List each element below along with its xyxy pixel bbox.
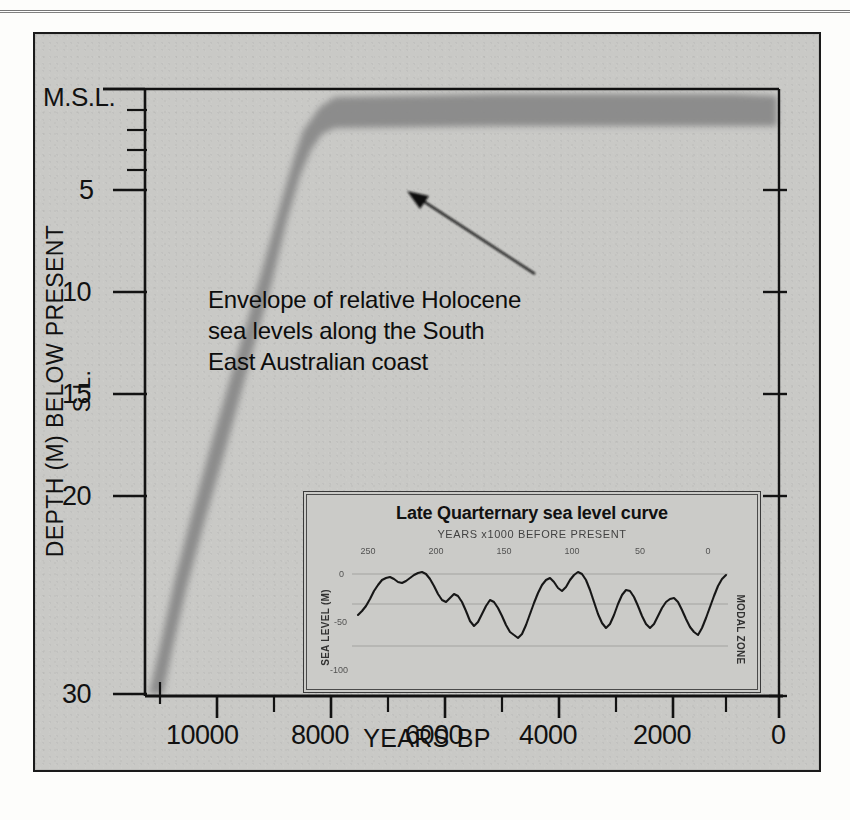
right-axis-ticks bbox=[763, 190, 787, 696]
callout-arrow bbox=[407, 191, 535, 274]
x-axis-title: YEARS BP bbox=[35, 724, 819, 753]
page-bleed-through-bottom bbox=[10, 778, 840, 812]
y-tick-label-30: 30 bbox=[62, 679, 91, 710]
y-axis-major-ticks bbox=[103, 89, 147, 694]
inset-panel: Late Quarternary sea level curve YEARS x… bbox=[303, 491, 761, 693]
figure-panel: M.S.L. 5 10 15 20 30 10000 8000 6000 400… bbox=[33, 32, 821, 772]
envelope-callout-text: Envelope of relative Holocene sea levels… bbox=[208, 284, 538, 377]
page-horizontal-rule bbox=[0, 10, 850, 13]
x-axis-major-ticks bbox=[217, 696, 779, 718]
inset-gridlines bbox=[352, 574, 728, 646]
y-tick-label-msl: M.S.L. bbox=[43, 82, 115, 113]
inset-sea-level-curve bbox=[304, 492, 760, 692]
y-axis-title: DEPTH (M) BELOW PRESENT S.L. bbox=[42, 201, 96, 581]
inset-curve-path bbox=[358, 572, 726, 638]
